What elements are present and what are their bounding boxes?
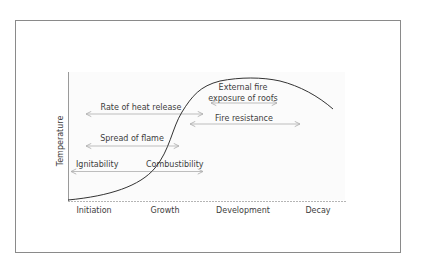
label-spread-of-flame: Spread of flame — [100, 135, 164, 143]
label-external-fire-line1: External fire — [208, 82, 277, 93]
x-label-initiation: Initiation — [76, 207, 111, 215]
label-rate-of-heat-release: Rate of heat release — [101, 104, 182, 112]
y-axis-label: Temperature — [56, 116, 65, 167]
label-external-fire-exposure: External fire exposure of roofs — [208, 82, 277, 104]
label-combustibility: Combustibility — [146, 161, 204, 169]
x-label-development: Development — [216, 207, 270, 215]
label-ignitability: Ignitability — [76, 161, 118, 169]
label-external-fire-line2: exposure of roofs — [208, 93, 277, 104]
x-label-growth: Growth — [151, 207, 180, 215]
label-fire-resistance: Fire resistance — [215, 115, 273, 123]
x-label-decay: Decay — [305, 207, 330, 215]
